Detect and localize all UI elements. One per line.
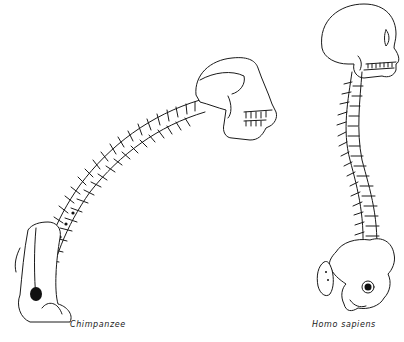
chimpanzee-spine bbox=[36, 100, 205, 302]
human-skeleton bbox=[317, 4, 399, 311]
chimpanzee-skull bbox=[196, 58, 277, 140]
chimpanzee-label: Chimpanzee bbox=[70, 320, 126, 329]
human-spine bbox=[337, 72, 379, 262]
chimpanzee-skeleton bbox=[15, 58, 276, 322]
line-drawings bbox=[0, 0, 404, 342]
human-pelvis bbox=[317, 239, 394, 311]
homo-sapiens-label: Homo sapiens bbox=[312, 320, 376, 329]
human-skull bbox=[322, 4, 399, 78]
chimpanzee-pelvis bbox=[15, 222, 71, 322]
skeleton-comparison-figure: Chimpanzee Homo sapiens bbox=[0, 0, 404, 342]
